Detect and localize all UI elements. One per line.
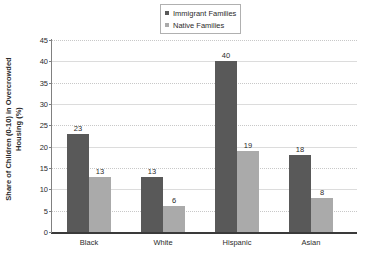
x-axis-tick-label-white: White bbox=[153, 238, 172, 247]
y-axis-tick-label: 0 bbox=[44, 228, 48, 237]
bar-value-label: 13 bbox=[148, 167, 156, 176]
plot-area: 051015202530354045 23131364019188 bbox=[52, 40, 348, 232]
bar-value-label: 40 bbox=[222, 51, 230, 60]
y-axis-tick-label: 35 bbox=[40, 78, 48, 87]
bar-group: 2313 bbox=[67, 40, 111, 232]
legend-item-native-families: Native Families bbox=[165, 20, 235, 30]
y-axis-title: Share of Children (0-10) in Overcrowded … bbox=[0, 0, 28, 257]
y-axis-tick-mark bbox=[49, 168, 52, 169]
bar-chart: Immigrant Families Native Families Share… bbox=[0, 0, 377, 257]
bar-white-native[interactable]: 6 bbox=[163, 206, 185, 232]
bar-value-label: 19 bbox=[244, 141, 252, 150]
bar-value-label: 6 bbox=[172, 196, 176, 205]
square-marker-icon bbox=[165, 11, 169, 15]
y-axis-tick-label: 15 bbox=[40, 164, 48, 173]
bar-group: 4019 bbox=[215, 40, 259, 232]
y-axis-tick-label: 5 bbox=[44, 206, 48, 215]
legend-label-native-families: Native Families bbox=[173, 21, 224, 30]
y-axis-tick-label: 45 bbox=[40, 36, 48, 45]
bar-black-immigrant[interactable]: 23 bbox=[67, 134, 89, 232]
y-axis-tick-label: 20 bbox=[40, 142, 48, 151]
y-axis-tick-label: 25 bbox=[40, 121, 48, 130]
bar-value-label: 13 bbox=[96, 167, 104, 176]
y-axis-tick-mark bbox=[49, 211, 52, 212]
legend-label-immigrant-families: Immigrant Families bbox=[173, 9, 236, 18]
legend-item-immigrant-families: Immigrant Families bbox=[165, 8, 235, 18]
bar-hispanic-native[interactable]: 19 bbox=[237, 151, 259, 232]
y-axis-title-line2: Housing (%) bbox=[14, 107, 23, 151]
x-axis-baseline bbox=[51, 232, 357, 234]
y-axis-tick-mark bbox=[49, 125, 52, 126]
y-axis-tick-mark bbox=[49, 147, 52, 148]
y-axis-tick-mark bbox=[49, 83, 52, 84]
bar-white-immigrant[interactable]: 13 bbox=[141, 177, 163, 232]
bar-hispanic-immigrant[interactable]: 40 bbox=[215, 61, 237, 232]
bar-black-native[interactable]: 13 bbox=[89, 177, 111, 232]
y-axis-tick-mark bbox=[49, 40, 52, 41]
square-marker-icon bbox=[165, 23, 169, 27]
x-axis-tick-label-black: Black bbox=[80, 238, 98, 247]
x-axis-tick-label-asian: Asian bbox=[302, 238, 321, 247]
bar-group: 188 bbox=[289, 40, 333, 232]
y-axis-title-line1: Share of Children (0-10) in Overcrowded bbox=[4, 57, 13, 200]
bar-value-label: 18 bbox=[296, 145, 304, 154]
y-axis-tick-mark bbox=[49, 189, 52, 190]
y-axis-tick-mark bbox=[49, 232, 52, 233]
y-axis-tick-mark bbox=[49, 61, 52, 62]
y-axis-tick-label: 40 bbox=[40, 57, 48, 66]
y-axis-tick-mark bbox=[49, 104, 52, 105]
chart-legend: Immigrant Families Native Families bbox=[160, 4, 241, 34]
bar-asian-native[interactable]: 8 bbox=[311, 198, 333, 232]
y-axis-tick-label: 30 bbox=[40, 100, 48, 109]
bar-value-label: 8 bbox=[320, 188, 324, 197]
y-axis-tick-label: 10 bbox=[40, 185, 48, 194]
bar-value-label: 23 bbox=[74, 124, 82, 133]
bar-asian-immigrant[interactable]: 18 bbox=[289, 155, 311, 232]
bar-group: 136 bbox=[141, 40, 185, 232]
x-axis-tick-label-hispanic: Hispanic bbox=[223, 238, 252, 247]
